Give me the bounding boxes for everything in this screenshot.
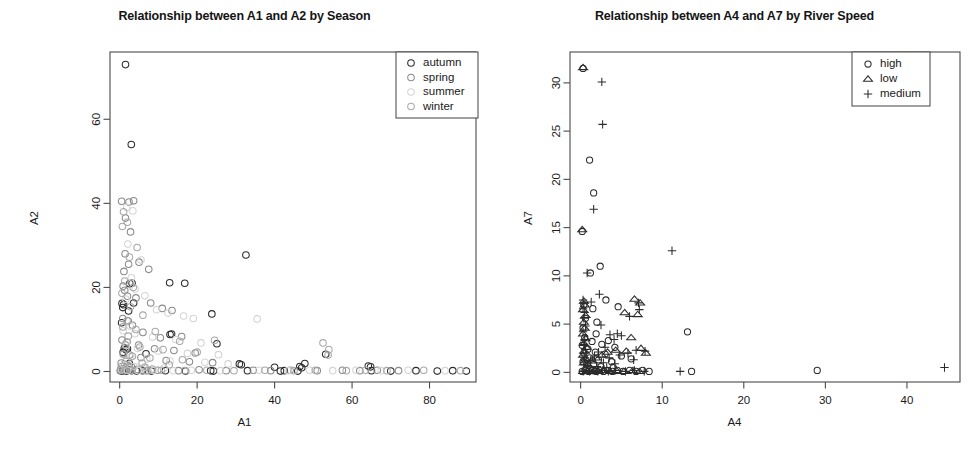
figure-root: Relationship between A1 and A2 by Season… (0, 0, 979, 460)
data-point-circle (591, 190, 597, 196)
x-tick-label: 0 (116, 394, 122, 406)
data-point-circle (353, 367, 360, 374)
y-tick-label: 0 (550, 369, 562, 375)
legend-label: winter (422, 100, 454, 112)
data-point-plus (597, 321, 605, 329)
data-point-circle (132, 286, 139, 293)
legend-label: low (880, 72, 898, 84)
data-point-circle (202, 359, 209, 366)
data-point-plus (625, 312, 633, 320)
data-point-triangle (633, 311, 642, 316)
x-axis-label-left: A1 (0, 416, 489, 428)
data-point-circle (225, 361, 232, 368)
y-tick-label: 25 (550, 125, 562, 138)
y-tick-label: 0 (90, 368, 102, 374)
data-point-circle (142, 293, 149, 300)
data-point-circle (128, 141, 135, 148)
data-point-circle (413, 367, 420, 374)
data-point-circle (152, 328, 159, 335)
data-point-circle (119, 223, 126, 230)
data-point-triangle (636, 345, 645, 350)
data-point-triangle (620, 309, 629, 314)
data-point-circle (160, 346, 167, 353)
data-point-circle (684, 329, 690, 335)
series-high (579, 65, 820, 374)
data-point-circle (131, 330, 138, 337)
legend-label: autumn (423, 56, 461, 68)
y-tick-label: 30 (550, 76, 562, 89)
series-medium (579, 78, 949, 376)
data-point-circle (449, 367, 456, 374)
data-point-circle (140, 312, 147, 319)
data-point-circle (122, 215, 129, 222)
data-point-circle (145, 266, 152, 273)
x-tick-label: 20 (191, 394, 204, 406)
data-point-circle (180, 313, 187, 320)
data-point-circle (118, 198, 125, 205)
data-point-circle (198, 340, 205, 347)
data-point-circle (343, 367, 350, 374)
data-point-circle (442, 367, 449, 374)
data-point-circle (586, 157, 592, 163)
y-tick-label: 5 (550, 321, 562, 327)
y-axis-label-left: A2 (28, 198, 40, 238)
data-point-circle (605, 337, 611, 343)
x-tick-label: 20 (737, 394, 750, 406)
y-tick-label: 20 (90, 281, 102, 294)
data-point-circle (151, 345, 158, 352)
data-point-plus (595, 290, 603, 298)
data-point-triangle (630, 296, 639, 301)
data-point-circle (127, 229, 134, 236)
data-point-circle (209, 311, 216, 318)
data-point-circle (215, 351, 222, 358)
data-point-circle (196, 367, 203, 374)
legend-label: medium (880, 87, 921, 99)
data-point-circle (171, 347, 178, 354)
data-point-circle (589, 338, 595, 344)
y-tick-label: 60 (90, 113, 102, 126)
data-point-circle (181, 280, 188, 287)
x-tick-label: 80 (423, 394, 436, 406)
x-tick-label: 40 (268, 394, 281, 406)
data-point-circle (190, 315, 197, 322)
x-axis-ticks: 010203040 (577, 382, 913, 406)
data-point-circle (231, 367, 238, 374)
data-point-plus (605, 354, 613, 362)
data-point-circle (320, 340, 327, 347)
data-point-circle (126, 254, 133, 261)
data-point-circle (173, 336, 180, 343)
data-point-plus (629, 356, 637, 364)
data-point-plus (590, 352, 598, 360)
data-point-circle (329, 367, 336, 374)
data-point-circle (243, 252, 250, 259)
data-point-plus (587, 298, 595, 306)
x-tick-label: 60 (346, 394, 359, 406)
data-point-triangle (622, 348, 631, 353)
data-point-plus (598, 78, 606, 86)
data-point-circle (593, 331, 599, 337)
data-point-circle (137, 344, 144, 351)
data-point-circle (122, 250, 129, 257)
data-point-circle (434, 368, 441, 375)
data-point-circle (147, 300, 154, 307)
x-tick-label: 10 (656, 394, 669, 406)
data-point-circle (405, 367, 412, 374)
data-point-triangle (578, 226, 587, 231)
data-point-circle (125, 241, 132, 248)
data-point-circle (155, 348, 162, 355)
data-point-circle (140, 329, 147, 336)
data-point-circle (122, 61, 129, 68)
series-low (578, 64, 651, 373)
scatter-plot-left: 0204060800204060autumnspringsummerwinter (0, 0, 489, 460)
data-point-circle (125, 261, 132, 268)
data-point-circle (594, 319, 600, 325)
data-point-circle (688, 368, 694, 374)
data-point-circle (395, 367, 402, 374)
x-axis-label-right: A4 (490, 416, 979, 428)
legend-label: high (880, 57, 902, 69)
data-point-circle (597, 263, 603, 269)
scatter-plot-right: 010203040051015202530highlowmedium (490, 0, 979, 460)
data-point-circle (133, 326, 140, 333)
data-point-circle (420, 367, 427, 374)
y-axis-label-right: A7 (522, 198, 534, 238)
